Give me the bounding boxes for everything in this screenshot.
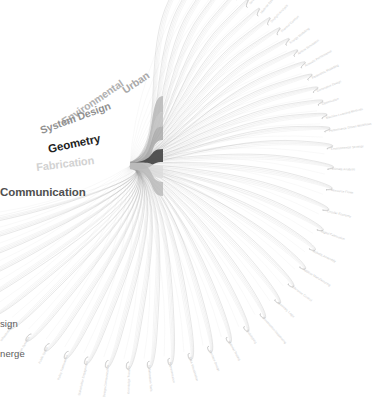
- target-node-label[interactable]: Knowledge Transfer: [126, 366, 130, 394]
- truncated-node-label[interactable]: nerge: [0, 348, 25, 359]
- source-node-label[interactable]: Communication: [0, 186, 84, 198]
- truncated-node-label[interactable]: sign: [0, 318, 18, 329]
